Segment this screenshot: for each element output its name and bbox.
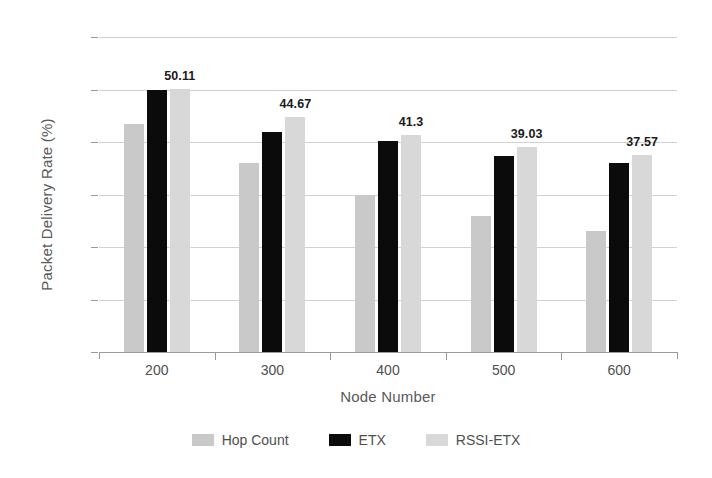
y-tick-mark — [91, 300, 98, 301]
y-tick-mark — [91, 195, 98, 196]
x-axis-separator — [561, 353, 562, 360]
x-tick-label: 200 — [107, 362, 207, 378]
legend-swatch-icon — [426, 434, 448, 446]
bar-chart: Packet Delivery Rate (%) Node Number Hop… — [0, 0, 712, 478]
bar — [285, 117, 305, 352]
x-tick-label: 300 — [222, 362, 322, 378]
x-axis-cap-right — [677, 352, 678, 359]
x-axis-separator — [215, 353, 216, 360]
bar — [632, 155, 652, 352]
bar — [494, 156, 514, 352]
bar-value-label: 39.03 — [492, 127, 562, 141]
legend-swatch-icon — [329, 434, 351, 446]
plot-area — [99, 37, 677, 352]
bar-value-label: 50.11 — [145, 69, 215, 83]
bar — [124, 124, 144, 352]
x-axis-title: Node Number — [99, 388, 677, 405]
y-tick-mark — [91, 90, 98, 91]
legend-label: RSSI-ETX — [456, 432, 521, 448]
bar-value-label: 44.67 — [260, 97, 330, 111]
y-tick-mark — [91, 247, 98, 248]
bar — [355, 195, 375, 353]
bar — [609, 163, 629, 352]
x-tick-label: 400 — [338, 362, 438, 378]
bar-value-label: 37.57 — [607, 135, 677, 149]
bar — [471, 216, 491, 353]
x-axis-separator — [446, 353, 447, 360]
bar — [239, 163, 259, 352]
chart-legend: Hop CountETXRSSI-ETX — [0, 432, 712, 448]
legend-item[interactable]: Hop Count — [192, 432, 289, 448]
x-axis-cap-left — [99, 352, 100, 359]
bar — [401, 135, 421, 352]
legend-swatch-icon — [192, 434, 214, 446]
bar — [262, 132, 282, 353]
bar — [147, 90, 167, 353]
bar — [170, 89, 190, 352]
legend-item[interactable]: RSSI-ETX — [426, 432, 521, 448]
bar — [586, 231, 606, 352]
y-tick-mark — [91, 37, 98, 38]
y-axis-title: Packet Delivery Rate (%) — [38, 85, 55, 325]
legend-label: Hop Count — [222, 432, 289, 448]
y-tick-mark — [91, 142, 98, 143]
x-tick-label: 500 — [454, 362, 554, 378]
y-tick-mark — [91, 352, 98, 353]
legend-item[interactable]: ETX — [329, 432, 386, 448]
x-tick-label: 600 — [569, 362, 669, 378]
bar — [517, 147, 537, 352]
legend-label: ETX — [359, 432, 386, 448]
bar-value-label: 41.3 — [376, 115, 446, 129]
x-axis-line — [99, 352, 677, 353]
bar — [378, 141, 398, 352]
gridline — [99, 37, 677, 38]
x-axis-separator — [330, 353, 331, 360]
